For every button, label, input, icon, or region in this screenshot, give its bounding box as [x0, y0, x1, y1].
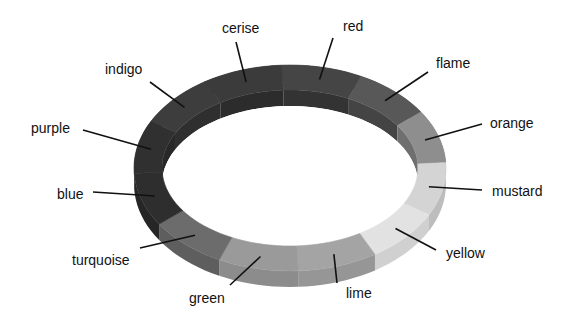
label-orange: orange [490, 115, 534, 131]
label-green: green [189, 290, 225, 306]
label-flame: flame [436, 55, 470, 71]
label-blue: blue [57, 186, 84, 202]
color-wheel-diagram: cerise red flame orange mustard yellow l… [0, 0, 571, 322]
label-mustard: mustard [492, 183, 543, 199]
label-yellow: yellow [446, 245, 486, 261]
label-cerise: cerise [222, 20, 260, 36]
label-red: red [343, 18, 363, 34]
leader-line-indigo [150, 82, 184, 107]
label-purple: purple [31, 120, 70, 136]
label-lime: lime [346, 285, 372, 301]
label-turquoise: turquoise [72, 252, 130, 268]
leader-line-flame [385, 72, 428, 101]
label-indigo: indigo [105, 61, 143, 77]
